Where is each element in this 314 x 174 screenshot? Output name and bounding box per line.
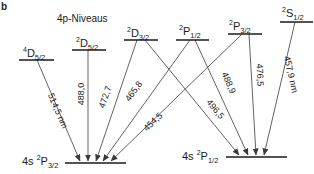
transitions-to-4s-2P1-2	[145, 22, 295, 155]
label-2S1-2: 2S1/2	[282, 6, 304, 22]
wavelength-label-488-0: 488,0	[76, 83, 86, 106]
transition-465-8	[103, 40, 190, 161]
label-4s-2P3-2: 4s 2P3/2	[22, 154, 58, 170]
wavelength-label-465-8: 465,8	[123, 79, 144, 103]
wavelength-label-457-9: 457,9 nm	[282, 55, 300, 94]
label-4s-2P1-2: 4s 2P1/2	[182, 149, 218, 165]
lower-levels	[65, 157, 287, 163]
wavelength-label-488-9: 488,9	[220, 70, 238, 95]
energy-level-diagram: b 4p-Niveaus 4D5/2 2D5/2 2D3/2 2P1/2 2P3…	[0, 0, 314, 174]
wavelength-label-472-7: 472,7	[97, 85, 114, 110]
upper-levels	[19, 22, 313, 60]
wavelength-label-454-5: 454,5	[141, 110, 164, 133]
diagram-title: 4p-Niveaus	[57, 13, 108, 24]
panel-label: b	[1, 1, 7, 12]
transition-496-5	[145, 40, 239, 155]
label-2P1-2: 2P1/2	[179, 24, 201, 40]
label-2P3-2: 2P3/2	[229, 19, 251, 35]
transition-488-9	[195, 40, 248, 155]
wavelength-label-514-5: 514,5 nm	[46, 92, 70, 130]
wavelength-label-476-5: 476,5	[254, 63, 265, 86]
transition-476-5	[249, 34, 256, 155]
